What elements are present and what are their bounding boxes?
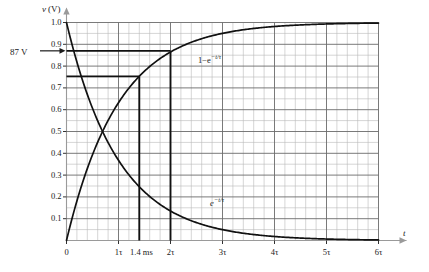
x-tick-label: 3τ xyxy=(211,247,235,257)
annotation-arrowhead xyxy=(60,48,66,54)
series-label-discharging-exponent: −t/τ xyxy=(214,196,224,203)
x-tick-label: 4τ xyxy=(263,247,287,257)
x-axis-label: t xyxy=(403,228,406,238)
y-tick-label: 0.7 xyxy=(40,82,62,92)
y-axis-label-unit: (V) xyxy=(48,4,61,14)
y-tick-label: 0.5 xyxy=(40,126,62,136)
guide-lines xyxy=(40,51,171,241)
series-label-charging-base: 1−e xyxy=(198,55,211,65)
chart-canvas xyxy=(0,0,429,272)
axis-lines xyxy=(67,9,407,241)
y-tick-label: 0.8 xyxy=(40,61,62,71)
series-label-charging: 1−e−t/τ xyxy=(198,53,221,65)
series-label-discharging: e−t/τ xyxy=(210,196,224,208)
y-axis-label: v(V) xyxy=(42,4,61,14)
figure-exponential-charging-discharging: v(V) t 87 V 1−e−t/τ e−t/τ 0.10.20.30.40.… xyxy=(0,0,429,272)
y-tick-label: 0.2 xyxy=(40,191,62,201)
y-tick-label: 0.3 xyxy=(40,170,62,180)
x-tick-label: 2τ xyxy=(159,247,183,257)
x-tick-label-1p4ms: 1.4 ms xyxy=(121,247,161,257)
x-tick-label: 5τ xyxy=(315,247,339,257)
y-axis-label-variable: v xyxy=(42,4,46,14)
y-tick-label: 0.9 xyxy=(40,39,62,49)
y-tick-label: 0.6 xyxy=(40,104,62,114)
series-label-charging-exponent: −t/τ xyxy=(211,53,221,60)
y-tick-label: 0.4 xyxy=(40,148,62,158)
x-tick-label: 6τ xyxy=(367,247,391,257)
x-tick-label: 0 xyxy=(55,247,79,257)
y-tick-label: 1.0 xyxy=(40,17,62,27)
y-tick-label: 0.1 xyxy=(40,213,62,223)
annotation-87v: 87 V xyxy=(10,47,28,57)
